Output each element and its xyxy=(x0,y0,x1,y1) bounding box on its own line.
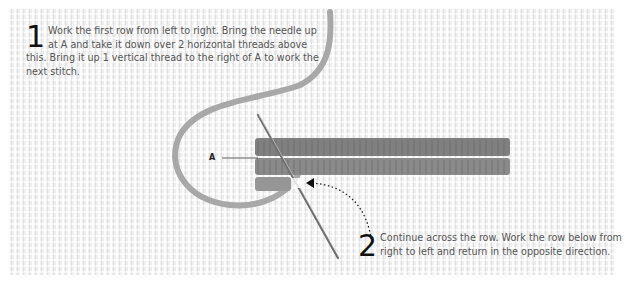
arrowhead-icon xyxy=(306,178,314,188)
step-1-number: 1 xyxy=(26,24,45,50)
step-2-instruction: 2 Continue across the row. Work the row … xyxy=(358,231,625,259)
step-2-number: 2 xyxy=(358,233,377,259)
step-1-text: Work the first row from left to right. B… xyxy=(26,25,319,77)
step-1-instruction: 1 Work the first row from left to right.… xyxy=(26,24,326,78)
step-2-text: Continue across the row. Work the row be… xyxy=(380,232,622,257)
label-a: A xyxy=(209,153,215,162)
